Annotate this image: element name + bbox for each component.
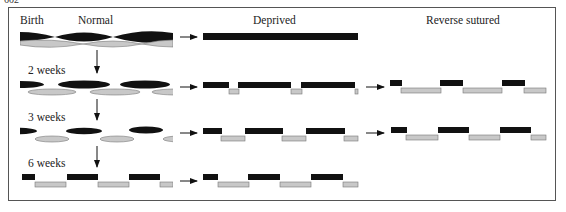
right-arrows-to-reverse: [366, 87, 384, 133]
normal-2-weeks: [0, 81, 202, 96]
deprived-2-weeks: [203, 82, 358, 94]
reverse-2-weeks: [390, 80, 546, 93]
normal-6-weeks: [22, 174, 173, 187]
deprived-6-weeks: [203, 174, 358, 187]
normal-3-weeks: [0, 127, 197, 143]
reverse-3-weeks: [391, 127, 546, 140]
deprived-birth: [203, 33, 358, 40]
right-arrows-to-deprived: [180, 37, 197, 181]
birth-row: [20, 31, 173, 47]
ocular-dominance-diagram: [0, 0, 566, 212]
deprived-3-weeks: [203, 128, 358, 141]
